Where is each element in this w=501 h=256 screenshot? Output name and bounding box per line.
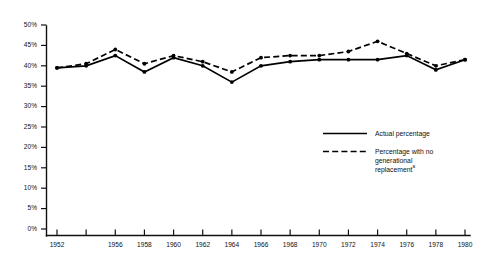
data-point-marker bbox=[434, 68, 438, 72]
y-tick-label: 40% bbox=[24, 62, 37, 69]
data-point-marker bbox=[172, 54, 176, 58]
data-point-marker bbox=[143, 70, 147, 74]
data-point-marker bbox=[463, 58, 467, 62]
legend: Actual percentage Percentage with no gen… bbox=[323, 130, 433, 174]
data-point-marker bbox=[230, 80, 234, 84]
data-point-marker bbox=[288, 60, 292, 64]
data-point-marker bbox=[84, 62, 88, 66]
data-point-marker bbox=[201, 64, 205, 68]
data-point-marker bbox=[113, 54, 117, 58]
x-tick-label: 1980 bbox=[458, 241, 473, 248]
data-point-marker bbox=[288, 54, 292, 58]
chart-container: 0%5%10%15%20%25%30%35%40%45%50% 19521956… bbox=[0, 0, 501, 256]
x-tick-label: 1966 bbox=[254, 241, 269, 248]
x-tick-label: 1956 bbox=[108, 241, 123, 248]
data-point-marker bbox=[113, 48, 117, 52]
data-point-marker bbox=[347, 50, 351, 54]
data-point-marker bbox=[55, 66, 59, 70]
data-point-marker bbox=[259, 56, 263, 60]
y-tick-label: 50% bbox=[24, 21, 37, 28]
y-tick-label: 20% bbox=[24, 143, 37, 150]
x-tick-label: 1974 bbox=[370, 241, 385, 248]
data-point-marker bbox=[317, 58, 321, 62]
series-line-actual-percentage bbox=[57, 56, 465, 83]
y-tick-label: 45% bbox=[24, 41, 37, 48]
y-axis: 0%5%10%15%20%25%30%35%40%45%50% bbox=[24, 21, 47, 236]
data-point-marker bbox=[405, 52, 409, 56]
y-tick-group: 0%5%10%15%20%25%30%35%40%45%50% bbox=[24, 21, 47, 232]
data-point-marker bbox=[434, 64, 438, 68]
legend-label-no-generational-replacement-line2: generational bbox=[375, 157, 413, 165]
data-point-marker bbox=[259, 64, 263, 68]
x-tick-label: 1962 bbox=[195, 241, 210, 248]
data-point-marker bbox=[201, 60, 205, 64]
x-tick-label: 1972 bbox=[341, 241, 356, 248]
x-tick-label: 1976 bbox=[399, 241, 414, 248]
x-tick-label: 1968 bbox=[283, 241, 298, 248]
data-point-marker bbox=[376, 39, 380, 43]
data-point-marker bbox=[347, 58, 351, 62]
series-group bbox=[55, 39, 467, 84]
line-chart: 0%5%10%15%20%25%30%35%40%45%50% 19521956… bbox=[0, 0, 501, 256]
y-tick-label: 35% bbox=[24, 82, 37, 89]
legend-label-no-generational-replacement-line3: replacementa bbox=[375, 164, 415, 174]
data-point-marker bbox=[143, 62, 147, 66]
data-point-marker bbox=[317, 54, 321, 58]
x-axis: 1952195619581960196219641966196819701972… bbox=[47, 230, 473, 249]
y-tick-label: 0% bbox=[27, 225, 37, 232]
x-tick-label: 1952 bbox=[50, 241, 65, 248]
x-tick-label: 1964 bbox=[225, 241, 240, 248]
y-tick-label: 25% bbox=[24, 123, 37, 130]
legend-label-actual-percentage: Actual percentage bbox=[375, 130, 430, 138]
y-tick-label: 10% bbox=[24, 184, 37, 191]
legend-label-no-generational-replacement-line1: Percentage with no bbox=[375, 148, 433, 156]
x-tick-label: 1978 bbox=[429, 241, 444, 248]
y-tick-label: 5% bbox=[27, 204, 37, 211]
data-point-marker bbox=[230, 70, 234, 74]
data-point-markers bbox=[55, 39, 467, 84]
y-tick-label: 30% bbox=[24, 102, 37, 109]
data-point-marker bbox=[376, 58, 380, 62]
x-tick-label: 1970 bbox=[312, 241, 327, 248]
y-tick-label: 15% bbox=[24, 164, 37, 171]
x-tick-label: 1958 bbox=[137, 241, 152, 248]
x-tick-group: 1952195619581960196219641966196819701972… bbox=[50, 230, 473, 249]
x-tick-label: 1960 bbox=[166, 241, 181, 248]
